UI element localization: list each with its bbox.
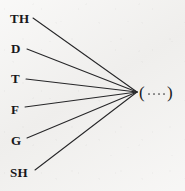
source-node-f: F: [11, 103, 19, 116]
edge-th-to-target: [33, 18, 137, 92]
ellipsis-dot: [153, 93, 155, 95]
ellipsis-dot: [158, 93, 160, 95]
ellipsis-dot: [163, 93, 165, 95]
open-paren: (: [139, 83, 145, 100]
source-node-th: TH: [10, 12, 29, 25]
source-node-sh: SH: [10, 166, 28, 179]
diagram-canvas: TH D T F G SH ( ): [0, 0, 185, 191]
ellipsis-dots: [148, 93, 165, 95]
close-paren: ): [167, 83, 173, 100]
target-node-ellipsis: ( ): [139, 84, 173, 101]
source-node-g: G: [11, 134, 21, 147]
ellipsis-dot: [148, 93, 150, 95]
source-node-t: T: [11, 72, 20, 85]
source-node-d: D: [11, 42, 21, 55]
edge-group: [25, 18, 137, 170]
